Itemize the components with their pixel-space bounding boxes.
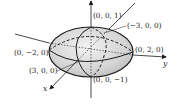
label-z-bottom: (0, 0, −1) xyxy=(93,75,128,84)
y-axis-front xyxy=(133,55,166,57)
y-axis-back xyxy=(15,34,49,43)
label-x-pos: (3, 0, 0) xyxy=(29,66,58,75)
label-z-top: (0, 0, 1) xyxy=(93,11,122,20)
ellipsoid-diagram: (0, 0, 1) (−3, 0, 0) (0, −2, 0) (0, 2, 0… xyxy=(0,0,175,109)
axis-label-x: x xyxy=(43,84,48,93)
label-y-pos: (0, 2, 0) xyxy=(135,45,164,54)
label-y-neg: (0, −2, 0) xyxy=(14,48,49,57)
label-x-neg: (−3, 0, 0) xyxy=(127,21,162,30)
axis-label-y: y xyxy=(162,59,168,68)
